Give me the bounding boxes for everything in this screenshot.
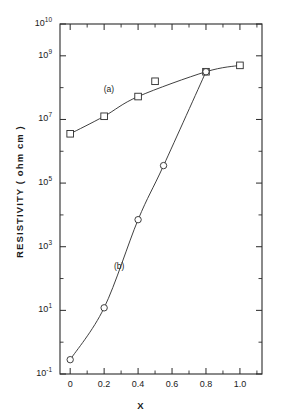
- data-point-series-1: [101, 305, 107, 311]
- data-point-series-1: [203, 69, 209, 75]
- data-point-outlier-series-0: [152, 78, 159, 85]
- curve-label-b: (b): [114, 261, 124, 271]
- data-point-series-0: [67, 130, 74, 137]
- y-tick-label-5: 101: [14, 305, 52, 314]
- data-point-series-0: [237, 62, 244, 69]
- plot-canvas: [0, 0, 282, 420]
- y-tick-label-1: 109: [14, 51, 52, 60]
- y-tick-label-6: 10-1: [14, 369, 52, 378]
- data-point-series-1: [160, 162, 166, 168]
- y-tick-label-3: 105: [14, 178, 52, 187]
- y-tick-label-4: 103: [14, 242, 52, 251]
- series-curve-1: [70, 72, 206, 360]
- curve-label-a: (a): [104, 84, 114, 94]
- data-point-series-0: [135, 93, 142, 100]
- x-tick-label-5: 1.0: [220, 380, 260, 389]
- series-curve-0: [70, 65, 240, 133]
- data-point-series-0: [101, 113, 108, 120]
- data-point-series-1: [135, 216, 141, 222]
- resistivity-vs-x-figure: RESISTIVITY ( ohm cm ) X 101010910710510…: [0, 0, 282, 420]
- y-tick-label-0: 1010: [14, 19, 52, 28]
- y-tick-label-2: 107: [14, 114, 52, 123]
- x-axis-title: X: [0, 400, 282, 411]
- data-point-series-1: [67, 356, 73, 362]
